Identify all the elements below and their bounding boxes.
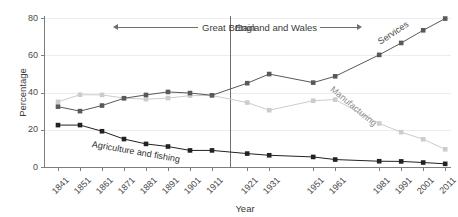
data-point-marker [188, 91, 193, 96]
data-point-marker [245, 81, 250, 86]
data-point-marker [267, 108, 272, 113]
data-point-marker [377, 53, 382, 58]
data-point-marker [333, 74, 338, 79]
data-point-marker [122, 96, 127, 101]
data-point-marker [421, 28, 426, 33]
data-point-marker [188, 148, 193, 153]
data-point-marker [144, 142, 149, 147]
data-point-marker [100, 93, 105, 98]
data-point-marker [421, 160, 426, 165]
series-line [58, 95, 445, 150]
data-point-marker [377, 159, 382, 164]
data-point-marker [166, 144, 171, 149]
data-point-marker [311, 155, 316, 160]
data-point-marker [56, 100, 61, 105]
data-point-marker [78, 123, 83, 128]
data-point-marker [100, 103, 105, 108]
data-point-marker [210, 93, 215, 98]
data-point-marker [311, 80, 316, 85]
data-point-marker [399, 41, 404, 46]
data-point-marker [245, 151, 250, 156]
data-point-marker [443, 147, 448, 152]
data-point-marker [78, 109, 83, 114]
data-point-marker [210, 148, 215, 153]
data-point-marker [421, 137, 426, 142]
data-point-marker [311, 98, 316, 103]
data-point-marker [144, 97, 149, 102]
data-point-marker [100, 129, 105, 134]
data-point-marker [144, 93, 149, 98]
data-point-marker [399, 159, 404, 164]
data-point-marker [56, 123, 61, 128]
data-point-marker [443, 162, 448, 167]
data-point-marker [333, 157, 338, 162]
data-point-marker [245, 100, 250, 105]
data-point-marker [267, 153, 272, 158]
data-point-marker [122, 137, 127, 142]
data-point-marker [166, 96, 171, 101]
data-point-marker [166, 90, 171, 95]
data-point-marker [443, 16, 448, 21]
data-point-marker [399, 130, 404, 135]
data-point-marker [56, 104, 61, 109]
data-point-marker [267, 72, 272, 77]
data-point-marker [78, 92, 83, 97]
